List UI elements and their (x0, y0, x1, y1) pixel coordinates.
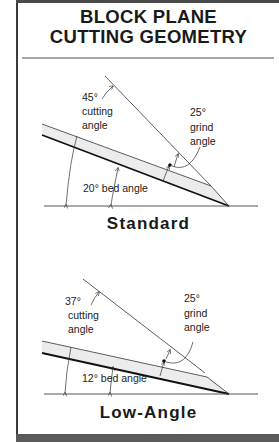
low-angle-diagram: 37° cutting angle 25° grind angle 12° be… (42, 279, 258, 394)
grind-angle-value-low-angle: 25° (184, 292, 200, 304)
cutting-angle-value-low-angle: 37° (65, 295, 81, 307)
cutting-angle-label2-standard: angle (82, 119, 108, 131)
cutting-angle-label1-low-angle: cutting (68, 309, 99, 321)
grind-angle-label2-low-angle: angle (184, 321, 210, 333)
caption-standard: Standard (18, 214, 279, 234)
caption-low-angle: Low-Angle (18, 403, 279, 423)
blade-low-angle (42, 341, 229, 394)
grind-angle-value-standard: 25° (190, 106, 206, 118)
grind-vertex-dot-low-angle (162, 359, 166, 363)
cutting-angle-label2-low-angle: angle (68, 323, 94, 335)
grind-angle-label1-standard: grind (190, 121, 214, 133)
standard-diagram: 45° cutting angle 25° grind angle 20° be… (42, 76, 258, 206)
bed-angle-label-low-angle: 12° bed angle (82, 372, 147, 384)
cutting-angle-value-standard: 45° (82, 91, 98, 103)
bed-angle-label-standard: 20° bed angle (83, 182, 148, 194)
grind-angle-label2-standard: angle (190, 135, 216, 147)
grind-vertex-dot-standard (168, 163, 172, 167)
grind-angle-label1-low-angle: grind (184, 307, 208, 319)
cutting-angle-label1-standard: cutting (82, 105, 113, 117)
